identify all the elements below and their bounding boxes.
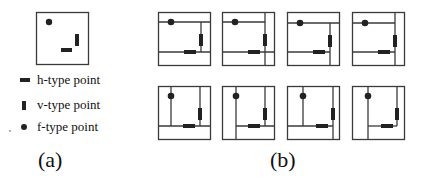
- h-type-legend-icon: [20, 78, 30, 82]
- v-type-legend-icon: [22, 101, 26, 110]
- f-type-point: [46, 19, 52, 25]
- legend-v-label: v-type point: [37, 98, 100, 112]
- panel-b5-box: [159, 87, 211, 140]
- diagram-canvas: [0, 0, 424, 179]
- f-type-legend-icon: [21, 124, 27, 130]
- caption-a: (a): [38, 148, 62, 172]
- legend-h-label: h-type point: [37, 73, 100, 87]
- panel-a-box: [37, 13, 89, 65]
- legend-f-label: f-type point: [37, 120, 98, 134]
- caption-b: (b): [270, 148, 296, 172]
- v-type-point: [75, 34, 79, 46]
- h-type-point: [61, 48, 72, 52]
